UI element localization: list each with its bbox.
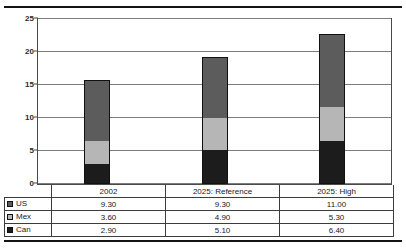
- data-cell: 11.00: [280, 198, 394, 211]
- y-axis-tick-label: 20: [25, 47, 34, 56]
- legend-cell-us[interactable]: US: [5, 198, 52, 211]
- bar-segment-can[interactable]: [203, 150, 227, 183]
- bar-segment-us[interactable]: [85, 81, 109, 141]
- stacked-bar[interactable]: [202, 57, 228, 184]
- table-row: Can2.905.106.40: [5, 224, 394, 237]
- legend-entry: US: [7, 200, 49, 208]
- bar-segment-can[interactable]: [85, 164, 109, 183]
- data-cell: 6.40: [280, 224, 394, 237]
- bar-slot-2025-high: [273, 19, 391, 184]
- stacked-bar[interactable]: [319, 34, 345, 184]
- legend-label: Mex: [16, 213, 31, 221]
- plot-area: 0510152025: [37, 18, 392, 185]
- data-cell: 2.90: [52, 224, 166, 237]
- us-swatch-icon: [7, 201, 13, 207]
- data-cell: 5.30: [280, 211, 394, 224]
- category-header-cell: 2002: [52, 185, 166, 198]
- bar-segment-mex[interactable]: [203, 118, 227, 150]
- y-axis-tick-label: 10: [25, 113, 34, 122]
- data-cell: 5.10: [166, 224, 280, 237]
- y-axis-tick-label: 25: [25, 14, 34, 23]
- legend-label: US: [16, 200, 27, 208]
- table-row: US9.309.3011.00: [5, 198, 394, 211]
- category-header-row: 20022025: Reference2025: High: [5, 185, 394, 198]
- category-header-cell: 2025: Reference: [166, 185, 280, 198]
- bar-series-group: [38, 19, 391, 184]
- stacked-column-chart-figure: 0510152025 20022025: Reference2025: High…: [0, 0, 406, 250]
- legend-entry: Can: [7, 226, 49, 234]
- legend-cell-can[interactable]: Can: [5, 224, 52, 237]
- data-cell: 4.90: [166, 211, 280, 224]
- legend-label: Can: [16, 226, 31, 234]
- bar-slot-2025-reference: [156, 19, 274, 184]
- top-rule-divider: [4, 6, 402, 8]
- data-cell: 3.60: [52, 211, 166, 224]
- category-header-cell: 2025: High: [280, 185, 394, 198]
- data-cell: 9.30: [166, 198, 280, 211]
- table-corner-cell: [5, 185, 52, 198]
- bar-segment-us[interactable]: [320, 35, 344, 107]
- table-row: Mex3.604.905.30: [5, 211, 394, 224]
- data-cell: 9.30: [52, 198, 166, 211]
- legend-entry: Mex: [7, 213, 49, 221]
- bar-segment-mex[interactable]: [320, 107, 344, 142]
- stacked-bar[interactable]: [84, 80, 110, 184]
- bar-segment-us[interactable]: [203, 58, 227, 118]
- bottom-rule-divider: [4, 240, 402, 242]
- legend-cell-mex[interactable]: Mex: [5, 211, 52, 224]
- y-axis-tick-label: 15: [25, 80, 34, 89]
- bar-segment-can[interactable]: [320, 141, 344, 183]
- mex-swatch-icon: [7, 214, 13, 220]
- can-swatch-icon: [7, 227, 13, 233]
- data-table: 20022025: Reference2025: HighUS9.309.301…: [4, 185, 394, 237]
- bar-segment-mex[interactable]: [85, 141, 109, 164]
- bar-slot-2002: [38, 19, 156, 184]
- data-table-body: 20022025: Reference2025: HighUS9.309.301…: [5, 185, 394, 237]
